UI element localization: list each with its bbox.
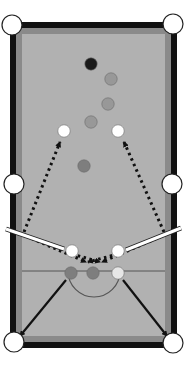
ball-white-target-right <box>112 125 124 137</box>
pocket-middle-right <box>162 174 182 194</box>
pool-table <box>10 22 177 348</box>
ball-baulk-ball-left <box>65 267 77 279</box>
table-felt <box>22 34 165 336</box>
pocket-top-left <box>2 15 22 35</box>
pocket-top-right <box>163 14 183 34</box>
pocket-middle-left <box>4 174 24 194</box>
ball-white-target-left <box>58 125 70 137</box>
ball-gray-2 <box>102 98 114 110</box>
ball-gray-1 <box>105 73 117 85</box>
ball-gray-4 <box>78 160 90 172</box>
pocket-bottom-right <box>163 333 183 353</box>
ball-white-cue-left <box>66 245 78 257</box>
ball-baulk-ball-right <box>112 267 124 279</box>
ball-black <box>85 58 97 70</box>
billiards-diagram <box>0 0 191 378</box>
ball-white-cue-right <box>112 245 124 257</box>
pocket-bottom-left <box>4 332 24 352</box>
ball-gray-3 <box>85 116 97 128</box>
ball-baulk-ball-center <box>87 267 99 279</box>
